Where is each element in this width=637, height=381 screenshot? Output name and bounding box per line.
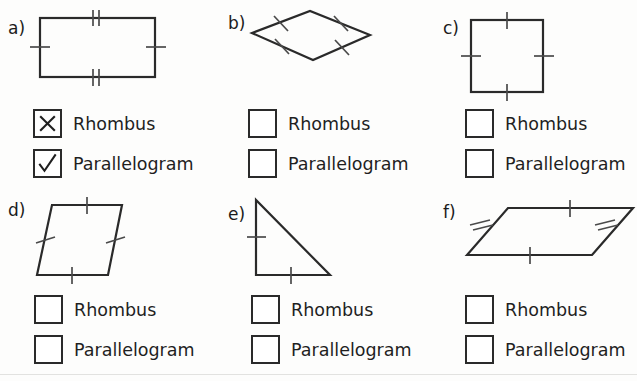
geometry-worksheet: a) (0, 0, 637, 381)
option-label-parallelogram-a: Parallelogram (73, 154, 194, 174)
option-label-rhombus-a: Rhombus (73, 114, 155, 134)
x-mark-icon (35, 111, 60, 136)
shape-parallelogram-f (430, 190, 637, 290)
option-label-rhombus-e: Rhombus (291, 300, 373, 320)
checkbox-parallelogram-f[interactable] (465, 335, 494, 364)
option-row-rhombus-a[interactable]: Rhombus (33, 108, 194, 139)
option-label-parallelogram-c: Parallelogram (505, 154, 626, 174)
option-row-parallelogram-c[interactable]: Parallelogram (465, 148, 626, 179)
option-row-parallelogram-a[interactable]: Parallelogram (33, 148, 194, 179)
shape-square-c (430, 0, 637, 105)
checkbox-parallelogram-b[interactable] (248, 149, 277, 178)
shape-rhombus-d (0, 190, 215, 290)
checkbox-parallelogram-c[interactable] (465, 149, 494, 178)
problem-b: b) Rhombus Parallelogram (215, 0, 430, 190)
options-e: Rhombus Parallelogram (251, 294, 412, 374)
option-row-rhombus-c[interactable]: Rhombus (465, 108, 626, 139)
option-label-rhombus-f: Rhombus (505, 300, 587, 320)
checkbox-rhombus-e[interactable] (251, 295, 280, 324)
option-row-rhombus-b[interactable]: Rhombus (248, 108, 409, 139)
options-f: Rhombus Parallelogram (465, 294, 626, 374)
problem-f: f) Rhombus Parall (430, 190, 637, 381)
checkbox-rhombus-b[interactable] (248, 109, 277, 138)
checkbox-rhombus-d[interactable] (34, 295, 63, 324)
checkbox-rhombus-c[interactable] (465, 109, 494, 138)
problem-a: a) (0, 0, 215, 190)
check-mark-icon (35, 151, 60, 176)
options-c: Rhombus Parallelogram (465, 108, 626, 188)
option-label-parallelogram-e: Parallelogram (291, 340, 412, 360)
options-d: Rhombus Parallelogram (34, 294, 195, 374)
problem-c: c) Rhombus Parallelogram (430, 0, 637, 190)
checkbox-rhombus-f[interactable] (465, 295, 494, 324)
options-b: Rhombus Parallelogram (248, 108, 409, 188)
shape-triangle-e (215, 190, 430, 290)
option-row-parallelogram-e[interactable]: Parallelogram (251, 334, 412, 365)
option-row-parallelogram-d[interactable]: Parallelogram (34, 334, 195, 365)
option-row-rhombus-f[interactable]: Rhombus (465, 294, 626, 325)
option-label-parallelogram-f: Parallelogram (505, 340, 626, 360)
option-row-rhombus-d[interactable]: Rhombus (34, 294, 195, 325)
checkbox-parallelogram-d[interactable] (34, 335, 63, 364)
option-row-rhombus-e[interactable]: Rhombus (251, 294, 412, 325)
checkbox-parallelogram-e[interactable] (251, 335, 280, 364)
option-label-rhombus-d: Rhombus (74, 300, 156, 320)
options-a: Rhombus Parallelogram (33, 108, 194, 188)
shape-rectangle-a (0, 0, 215, 100)
option-label-rhombus-c: Rhombus (505, 114, 587, 134)
checkbox-rhombus-a[interactable] (33, 109, 62, 138)
option-label-parallelogram-d: Parallelogram (74, 340, 195, 360)
option-label-rhombus-b: Rhombus (288, 114, 370, 134)
shape-rhombus-b (215, 0, 430, 100)
option-row-parallelogram-b[interactable]: Parallelogram (248, 148, 409, 179)
page-bottom-rule (0, 374, 637, 375)
option-row-parallelogram-f[interactable]: Parallelogram (465, 334, 626, 365)
problem-d: d) Rhombus Parallelogram (0, 190, 215, 381)
option-label-parallelogram-b: Parallelogram (288, 154, 409, 174)
problem-e: e) Rhombus Parallelogram (215, 190, 430, 381)
checkbox-parallelogram-a[interactable] (33, 149, 62, 178)
